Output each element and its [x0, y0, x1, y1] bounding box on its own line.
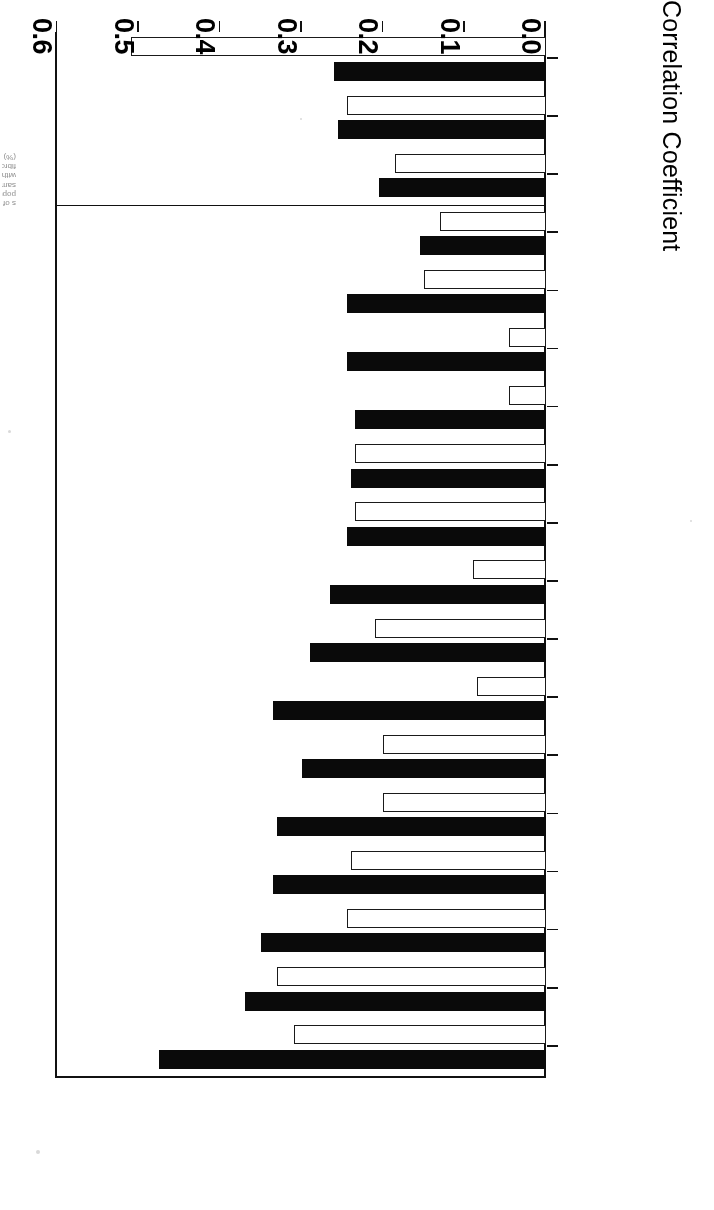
bar-group: [55, 729, 546, 787]
bar-series-container: [55, 32, 546, 1078]
bar-solid: [420, 236, 546, 255]
bar-solid: [355, 410, 546, 429]
scan-speck: [690, 520, 692, 522]
bar-open: [351, 851, 546, 870]
bar-group: [55, 206, 546, 264]
scan-speck: [36, 1150, 40, 1154]
category-tick: [547, 231, 558, 233]
plot-area: 0.00.10.20.30.40.50.6: [55, 32, 546, 1078]
category-tick: [547, 813, 558, 815]
bar-solid: [347, 294, 546, 313]
category-tick: [547, 696, 558, 698]
bar-solid: [302, 759, 546, 778]
bar-solid: [273, 875, 546, 894]
category-tick: [547, 173, 558, 175]
bar-open: [395, 154, 546, 173]
category-tick: [547, 987, 558, 989]
rotated-figure: 0.00.10.20.30.40.50.6 HAQPain All OverVA…: [0, 0, 714, 1210]
bar-group: [55, 1020, 546, 1078]
category-tick: [547, 754, 558, 756]
bar-group: [55, 904, 546, 962]
bar-solid: [310, 643, 546, 662]
bar-open: [347, 96, 546, 115]
category-tick: [547, 522, 558, 524]
bar-open: [355, 502, 546, 521]
category-tick: [547, 1045, 558, 1047]
category-tick: [547, 348, 558, 350]
bar-open: [440, 212, 546, 231]
bar-open: [347, 909, 546, 928]
bar-open: [383, 735, 546, 754]
bar-open: [355, 444, 546, 463]
bar-open: [383, 793, 546, 812]
bar-solid: [347, 527, 546, 546]
bar-group: [55, 497, 546, 555]
caption-fragment: s of population samples with fibromyalgi…: [2, 8, 16, 208]
bar-solid: [379, 178, 546, 197]
bar-solid: [334, 62, 546, 81]
axis-title: Correlation Coefficient: [657, 0, 686, 252]
bar-solid: [159, 1050, 546, 1069]
category-tick: [547, 929, 558, 931]
bar-group: [55, 381, 546, 439]
bar-open: [509, 386, 546, 405]
bar-open: [473, 560, 546, 579]
bar-group: [55, 148, 546, 206]
scan-speck: [300, 118, 302, 120]
bar-group: [55, 439, 546, 497]
bar-open: [294, 1025, 546, 1044]
bar-open: [424, 270, 546, 289]
category-tick: [547, 638, 558, 640]
bar-group: [55, 264, 546, 322]
bar-group: [55, 846, 546, 904]
category-tick: [547, 580, 558, 582]
bar-solid: [277, 817, 546, 836]
bar-solid: [347, 352, 546, 371]
scan-speck: [8, 430, 11, 433]
category-tick: [547, 464, 558, 466]
bar-group: [55, 323, 546, 381]
bar-group: [55, 671, 546, 729]
category-tick: [547, 871, 558, 873]
bar-open: [375, 619, 546, 638]
category-tick: [547, 57, 558, 59]
bar-group: [55, 555, 546, 613]
bar-group: [55, 613, 546, 671]
bar-group: [55, 962, 546, 1020]
bar-open: [477, 677, 546, 696]
bar-open: [277, 967, 546, 986]
category-tick: [547, 290, 558, 292]
bar-solid: [273, 701, 546, 720]
bar-solid: [338, 120, 546, 139]
bar-open: [509, 328, 546, 347]
category-tick: [547, 115, 558, 117]
bar-solid: [330, 585, 546, 604]
bar-solid: [245, 992, 546, 1011]
category-tick: [547, 406, 558, 408]
bar-solid: [261, 933, 546, 952]
bar-solid: [351, 469, 546, 488]
bar-group: [55, 787, 546, 845]
